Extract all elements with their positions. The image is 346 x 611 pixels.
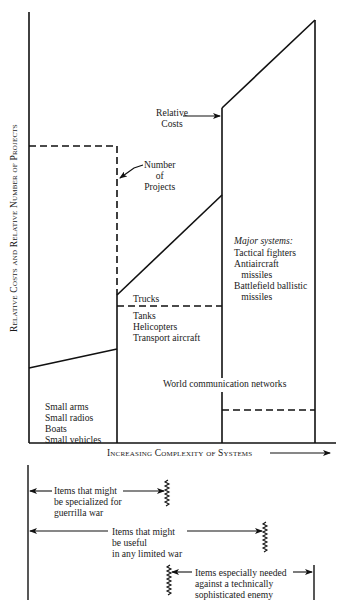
x-axis-label: Increasing Complexity of Systems xyxy=(107,448,252,459)
number-of-projects-label: Number of Projects xyxy=(144,159,175,192)
major-systems-heading: Major systems: xyxy=(234,235,293,246)
range1-label: Items that might be specialized for guer… xyxy=(54,485,122,518)
range2-label: Items that might be useful in any limite… xyxy=(112,526,182,559)
band2-items: Tactical fighters Antiaircraft missiles … xyxy=(234,247,307,302)
range3-label: Items especially needed against a techni… xyxy=(195,567,287,600)
cost-line-band1 xyxy=(117,195,222,295)
band1-items: Tanks Helicopters Transport aircraft xyxy=(133,310,200,343)
number-of-projects-arrow xyxy=(120,165,143,178)
cost-line-band2 xyxy=(222,20,315,108)
band0-items: Small arms Small radios Boats Small vehi… xyxy=(45,401,101,445)
cost-line-band0 xyxy=(29,349,117,368)
world-communication-label: World communication networks xyxy=(161,378,288,389)
range3-break-icon xyxy=(167,565,171,595)
relative-costs-label: Relative Costs xyxy=(156,107,188,129)
diagram-canvas xyxy=(0,0,346,611)
range2-break-icon xyxy=(263,522,267,552)
trucks-label: Trucks xyxy=(133,293,159,304)
range1-break-icon xyxy=(165,480,169,506)
y-axis-label: Relative Costs and Relative Number of Pr… xyxy=(9,124,19,332)
